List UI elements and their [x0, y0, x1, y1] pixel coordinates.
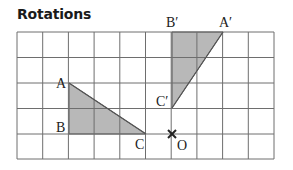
label-c: C: [135, 137, 144, 152]
label-a: A: [56, 76, 67, 91]
square-grid: [17, 32, 274, 159]
rotation-diagram: A B C B′ A′ C′ O: [0, 0, 293, 170]
label-a-prime: A′: [219, 15, 232, 30]
label-b: B: [56, 120, 65, 135]
label-c-prime: C′: [156, 94, 168, 109]
label-b-prime: B′: [166, 15, 178, 30]
label-o: O: [177, 138, 187, 153]
